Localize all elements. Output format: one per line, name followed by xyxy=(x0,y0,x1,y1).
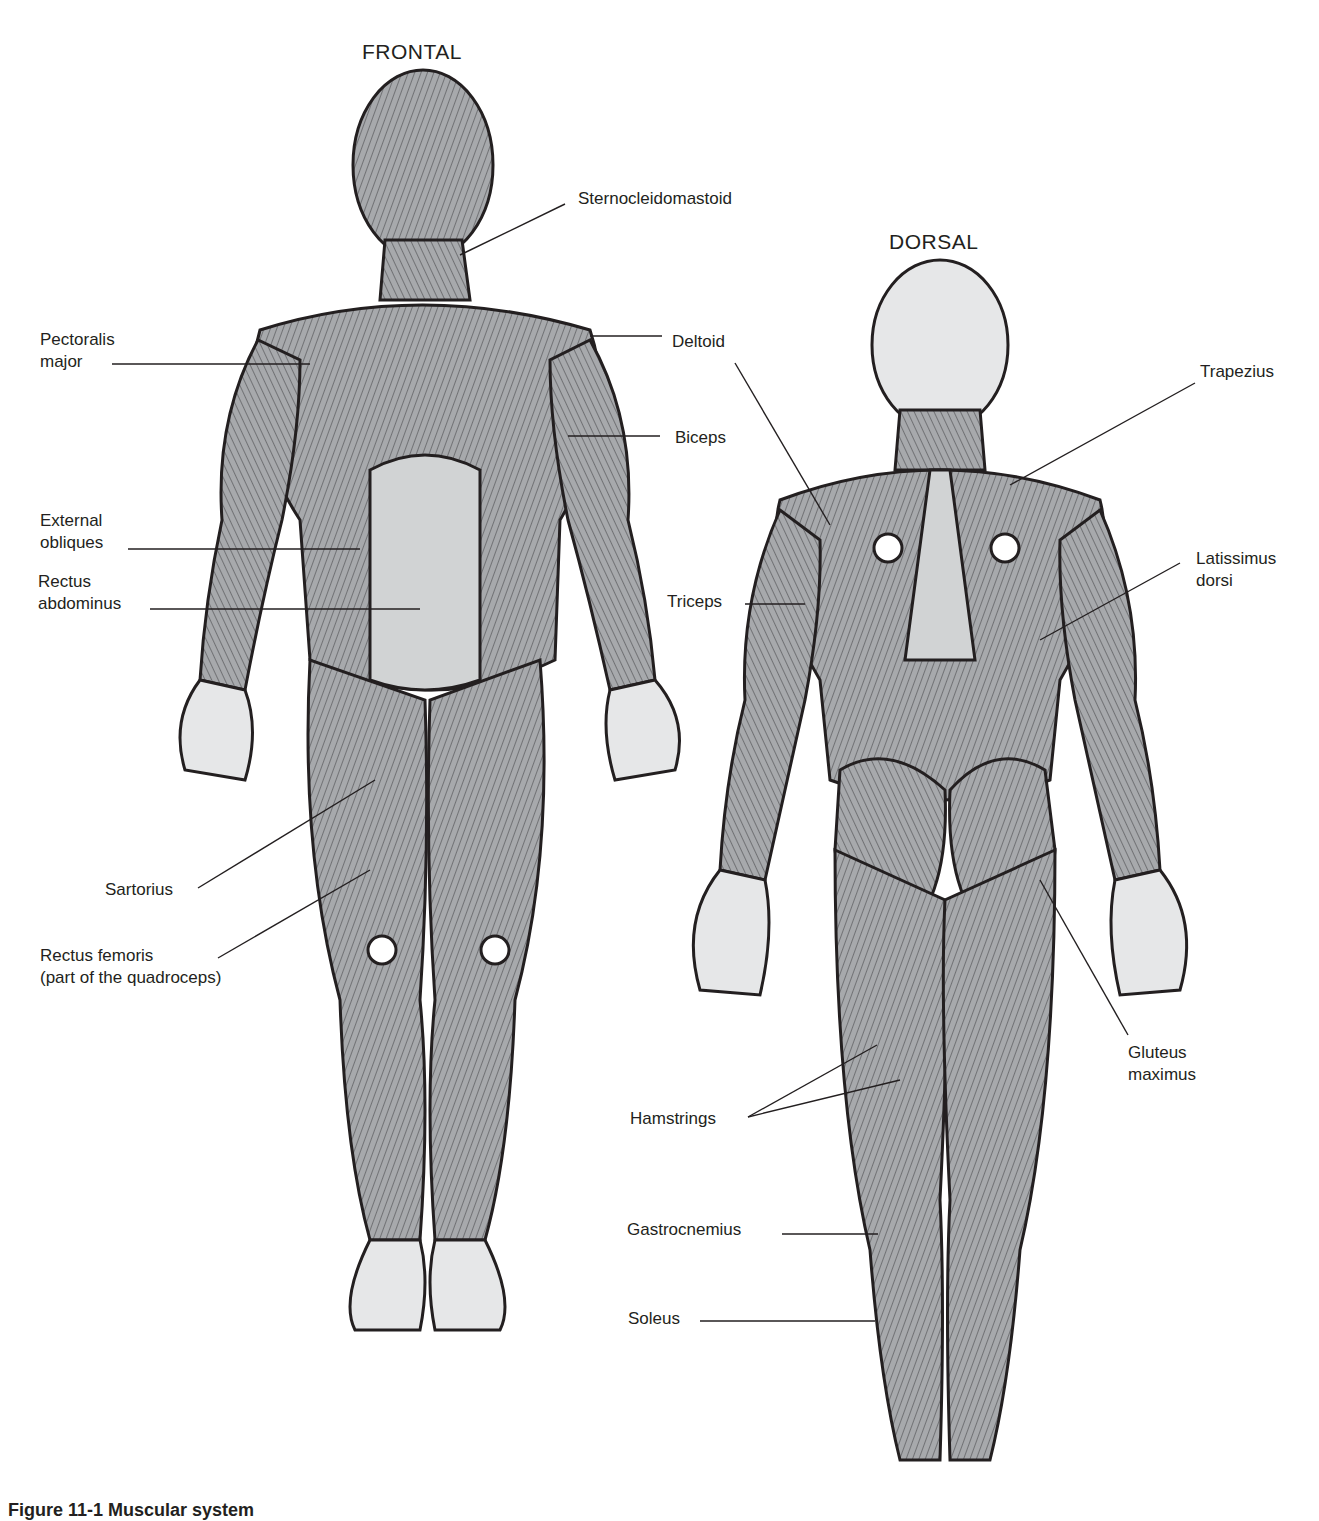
label-pectoralis-major: Pectoralis major xyxy=(40,329,115,373)
label-biceps: Biceps xyxy=(675,427,726,449)
dorsal-view-title: DORSAL xyxy=(889,230,978,254)
label-latissimus-dorsi: Latissimus dorsi xyxy=(1196,548,1276,592)
label-gastrocnemius: Gastrocnemius xyxy=(627,1219,741,1241)
label-gluteus-maximus: Gluteus maximus xyxy=(1128,1042,1196,1086)
label-rectus-abdominus: Rectus abdominus xyxy=(38,571,121,615)
figure-caption: Figure 11-1 Muscular system xyxy=(8,1500,254,1521)
label-rectus-femoris: Rectus femoris (part of the quadroceps) xyxy=(40,945,221,989)
label-hamstrings: Hamstrings xyxy=(630,1108,716,1130)
dorsal-figure xyxy=(693,260,1186,1460)
label-sartorius: Sartorius xyxy=(105,879,173,901)
label-soleus: Soleus xyxy=(628,1308,680,1330)
frontal-view-title: FRONTAL xyxy=(362,40,462,64)
label-triceps: Triceps xyxy=(667,591,722,613)
label-trapezius: Trapezius xyxy=(1200,361,1274,383)
label-sternocleidomastoid: Sternocleidomastoid xyxy=(578,188,732,210)
frontal-figure xyxy=(180,70,680,1330)
label-external-obliques: External obliques xyxy=(40,510,103,554)
label-deltoid: Deltoid xyxy=(672,331,725,353)
